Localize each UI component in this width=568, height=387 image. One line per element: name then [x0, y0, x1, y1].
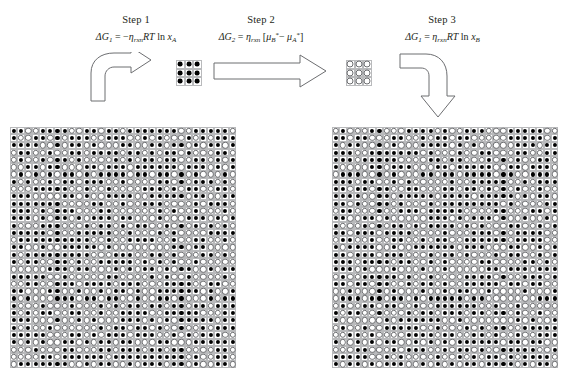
lattice-site: [207, 273, 214, 280]
lattice-site: [522, 215, 529, 222]
lattice-site: [163, 207, 170, 214]
lattice-site: [46, 163, 53, 170]
lattice-site: [112, 288, 119, 295]
lattice-site: [46, 339, 53, 346]
lattice-site: [185, 324, 192, 331]
lattice-site: [449, 127, 456, 134]
lattice-site: [368, 353, 375, 360]
lattice-site: [83, 229, 90, 236]
lattice-site: [171, 251, 178, 258]
lattice-site: [32, 302, 39, 309]
lattice-site: [463, 163, 470, 170]
lattice-site: [529, 149, 536, 156]
lattice-site: [529, 142, 536, 149]
lattice-site: [68, 324, 75, 331]
lattice-site: [112, 309, 119, 316]
lattice-site: [141, 236, 148, 243]
lattice-site: [376, 346, 383, 353]
lattice-site: [368, 302, 375, 309]
lattice-site: [332, 317, 339, 324]
lattice-site: [332, 185, 339, 192]
lattice-site: [361, 309, 368, 316]
lattice-site: [544, 295, 551, 302]
lattice-site: [434, 127, 441, 134]
lattice-site: [551, 142, 558, 149]
lattice-site: [39, 324, 46, 331]
lattice-site: [332, 236, 339, 243]
lattice-site: [493, 149, 500, 156]
lattice-site: [500, 215, 507, 222]
lattice-site: [339, 149, 346, 156]
lattice-site: [127, 258, 134, 265]
lattice-site: [332, 331, 339, 338]
lattice-site: [134, 222, 141, 229]
lattice-site: [229, 200, 236, 207]
lattice-site: [463, 207, 470, 214]
lattice-site: [485, 317, 492, 324]
lattice-site: [119, 222, 126, 229]
lattice-site: [354, 353, 361, 360]
step-3-eta-subscript: rxn: [437, 36, 446, 44]
lattice-site: [347, 361, 354, 368]
lattice-site: [522, 229, 529, 236]
lattice-site: [441, 207, 448, 214]
lattice-site: [551, 171, 558, 178]
lattice-site: [383, 339, 390, 346]
lattice-site: [354, 288, 361, 295]
lattice-site: [544, 193, 551, 200]
lattice-site: [500, 324, 507, 331]
lattice-site: [493, 361, 500, 368]
lattice-site: [471, 207, 478, 214]
lattice-site: [127, 309, 134, 316]
lattice-site: [514, 244, 521, 251]
lattice-site: [163, 156, 170, 163]
lattice-site: [112, 251, 119, 258]
lattice-site: [383, 171, 390, 178]
lattice-site: [441, 280, 448, 287]
lattice-site: [544, 178, 551, 185]
lattice-site: [46, 280, 53, 287]
lattice-site: [141, 266, 148, 273]
lattice-site: [456, 280, 463, 287]
lattice-site: [354, 302, 361, 309]
lattice-site: [522, 309, 529, 316]
lattice-site: [478, 361, 485, 368]
lattice-site: [354, 134, 361, 141]
lattice-site: [398, 207, 405, 214]
lattice-site: [127, 229, 134, 236]
lattice-site: [61, 178, 68, 185]
lattice-site: [17, 244, 24, 251]
lattice-site: [17, 193, 24, 200]
lattice-site: [149, 324, 156, 331]
lattice-site: [222, 339, 229, 346]
lattice-site: [54, 324, 61, 331]
lattice-site: [376, 127, 383, 134]
lattice-site: [493, 258, 500, 265]
lattice-site: [529, 185, 536, 192]
lattice-site: [434, 273, 441, 280]
lattice-site: [493, 163, 500, 170]
lattice-site: [10, 346, 17, 353]
lattice-site: [98, 273, 105, 280]
lattice-site: [412, 339, 419, 346]
lattice-site: [214, 127, 221, 134]
lattice-site: [522, 156, 529, 163]
lattice-site: [156, 361, 163, 368]
lattice-site: [68, 215, 75, 222]
lattice-site: [207, 207, 214, 214]
lattice-site: [361, 288, 368, 295]
lattice-site: [441, 295, 448, 302]
lattice-site: [398, 171, 405, 178]
lattice-site: [39, 317, 46, 324]
lattice-site: [412, 127, 419, 134]
lattice-site: [463, 309, 470, 316]
lattice-site: [68, 361, 75, 368]
lattice-site: [346, 77, 355, 86]
lattice-site: [471, 258, 478, 265]
lattice-site: [112, 339, 119, 346]
lattice-site: [478, 207, 485, 214]
lattice-site: [214, 309, 221, 316]
lattice-site: [17, 288, 24, 295]
lattice-site: [456, 134, 463, 141]
lattice-site: [412, 163, 419, 170]
